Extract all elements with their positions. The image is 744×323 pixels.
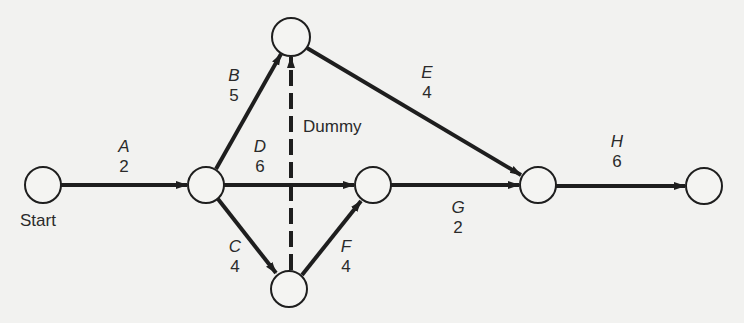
activity-name: A (109, 137, 139, 157)
activity-duration: 4 (331, 257, 361, 277)
label-start: Start (20, 211, 56, 231)
activity-duration: 6 (245, 157, 275, 177)
activity-duration: 4 (412, 83, 442, 103)
activity-name: H (602, 132, 632, 152)
node-4 (271, 271, 307, 307)
activity-name: F (331, 237, 361, 257)
label-activity-a: A 2 (109, 137, 139, 177)
activity-name: B (219, 66, 249, 86)
node-2 (188, 167, 224, 203)
node-start (25, 167, 61, 203)
activity-duration: 6 (602, 152, 632, 172)
node-end (686, 168, 722, 204)
label-activity-h: H 6 (602, 132, 632, 172)
label-activity-e: E 4 (412, 63, 442, 103)
label-activity-d: D 6 (245, 137, 275, 177)
node-5 (355, 167, 391, 203)
node-3 (272, 18, 310, 56)
activity-name: D (245, 137, 275, 157)
label-activity-g: G 2 (443, 198, 473, 238)
label-activity-b: B 5 (219, 66, 249, 106)
activity-duration: 5 (219, 86, 249, 106)
activity-name: C (220, 237, 250, 257)
label-activity-f: F 4 (331, 237, 361, 277)
node-6 (520, 167, 556, 203)
activity-duration: 2 (443, 218, 473, 238)
network-diagram: A 2 B 5 C 4 D 6 E 4 F 4 G 2 H 6 Dummy St… (0, 0, 744, 323)
activity-name: E (412, 63, 442, 83)
activity-duration: 2 (109, 157, 139, 177)
activity-duration: 4 (220, 257, 250, 277)
label-activity-c: C 4 (220, 237, 250, 277)
label-dummy: Dummy (303, 117, 362, 137)
activity-name: G (443, 198, 473, 218)
